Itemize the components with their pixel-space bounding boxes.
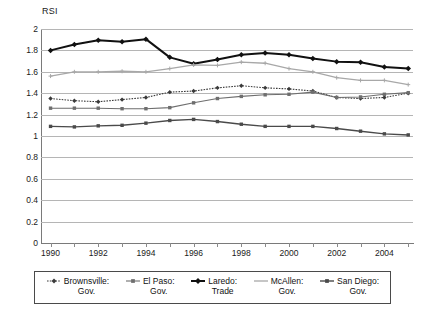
y-axis-tick-labels: 21.81.61.41.210.80.60.40.20	[0, 0, 38, 317]
x-tick-label: 2000	[280, 248, 299, 258]
chart-container: RSI 21.81.61.41.210.80.60.40.20 19901992…	[0, 0, 425, 317]
legend-item-3[interactable]: McAllen:Gov.	[253, 276, 304, 296]
x-tick-mark	[408, 243, 409, 247]
x-tick-mark	[170, 243, 171, 247]
series-3	[49, 60, 411, 86]
x-tick-label: 1990	[41, 248, 60, 258]
y-tick-label: 1.6	[2, 67, 38, 77]
x-axis-line	[41, 243, 414, 244]
x-tick-mark	[361, 243, 362, 247]
legend-label-line2: Gov.	[143, 286, 175, 296]
legend-item-2[interactable]: Laredo:Trade	[190, 276, 237, 296]
plot-area	[41, 29, 413, 243]
x-tick-mark	[74, 243, 75, 247]
series-2	[48, 36, 411, 71]
legend-label-line1: San Diego:	[337, 276, 379, 286]
legend-label-line1: Laredo:	[208, 276, 237, 286]
chart-legend: Brownsville:Gov.El Paso:Gov.Laredo:Trade…	[34, 271, 391, 304]
y-axis-title: RSI	[42, 6, 58, 16]
series-lines	[41, 29, 413, 243]
x-tick-mark	[289, 243, 290, 247]
x-tick-label: 1996	[184, 248, 203, 258]
x-tick-label: 1994	[136, 248, 155, 258]
y-tick-label: 0	[2, 238, 38, 248]
bottom-caption-artifact	[0, 309, 425, 317]
x-tick-mark	[194, 243, 195, 247]
y-tick-label: 0.8	[2, 152, 38, 162]
legend-label-line1: El Paso:	[143, 276, 175, 286]
x-tick-label: 1992	[89, 248, 108, 258]
y-tick-label: 0.6	[2, 174, 38, 184]
y-tick-label: 1.2	[2, 110, 38, 120]
y-tick-label: 0.4	[2, 195, 38, 205]
y-tick-label: 2	[2, 24, 38, 34]
x-tick-label: 1998	[232, 248, 251, 258]
x-tick-mark	[217, 243, 218, 247]
x-tick-label: 2004	[375, 248, 394, 258]
legend-item-4[interactable]: San Diego:Gov.	[319, 276, 379, 296]
x-tick-mark	[337, 243, 338, 247]
y-tick-label: 1.4	[2, 88, 38, 98]
series-1	[49, 90, 410, 110]
series-0	[48, 84, 410, 104]
legend-marker-icon	[46, 276, 62, 286]
x-tick-mark	[265, 243, 266, 247]
legend-label-line2: Trade	[208, 286, 237, 296]
legend-label-line2: Gov.	[337, 286, 379, 296]
x-tick-mark	[146, 243, 147, 247]
x-tick-mark	[313, 243, 314, 247]
x-tick-mark	[241, 243, 242, 247]
legend-label-line1: McAllen:	[271, 276, 304, 286]
legend-marker-icon	[125, 276, 141, 286]
y-tick-label: 1.8	[2, 45, 38, 55]
x-tick-mark	[384, 243, 385, 247]
legend-label-line2: Gov.	[271, 286, 304, 296]
y-tick-label: 0.2	[2, 217, 38, 227]
legend-marker-icon	[319, 276, 335, 286]
legend-marker-icon	[253, 276, 269, 286]
x-tick-mark	[98, 243, 99, 247]
series-4	[49, 118, 410, 137]
legend-label-line2: Gov.	[64, 286, 109, 296]
legend-marker-icon	[190, 276, 206, 286]
x-tick-mark	[122, 243, 123, 247]
y-tick-label: 1	[2, 131, 38, 141]
legend-item-1[interactable]: El Paso:Gov.	[125, 276, 175, 296]
legend-item-0[interactable]: Brownsville:Gov.	[46, 276, 109, 296]
x-tick-label: 2002	[327, 248, 346, 258]
legend-label-line1: Brownsville:	[64, 276, 109, 286]
x-tick-mark	[51, 243, 52, 247]
